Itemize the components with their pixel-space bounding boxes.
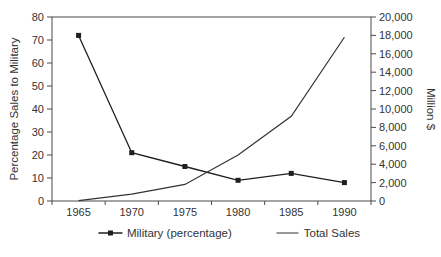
right-axis-tick-label: 6,000 <box>379 140 407 152</box>
legend-item-total-sales: Total Sales <box>276 227 360 239</box>
data-point-marker <box>236 178 241 183</box>
right-axis-tick-label: 10,000 <box>379 103 413 115</box>
data-point-marker <box>129 150 134 155</box>
x-axis-tick-label: 1970 <box>120 206 144 218</box>
left-axis-tick-label: 40 <box>32 103 44 115</box>
right-axis-tick-label: 16,000 <box>379 48 413 60</box>
right-axis-tick-label: 4,000 <box>379 158 407 170</box>
left-axis-tick-label: 0 <box>38 195 44 207</box>
right-axis-tick-label: 8,000 <box>379 121 407 133</box>
left-axis-title: Percentage Sales to Military <box>8 37 20 180</box>
military-series-swatch <box>97 228 123 238</box>
legend-label-military: Military (percentage) <box>127 227 232 239</box>
plot-area: 0102030405060708002,0004,0006,0008,00010… <box>0 0 441 257</box>
right-axis-tick-label: 18,000 <box>379 29 413 41</box>
data-point-marker <box>289 171 294 176</box>
right-axis-tick-label: 12,000 <box>379 85 413 97</box>
data-point-marker <box>182 164 187 169</box>
right-axis-title: Million $ <box>425 88 437 130</box>
right-axis-tick-label: 0 <box>379 195 385 207</box>
x-axis-tick-label: 1975 <box>173 206 197 218</box>
left-axis-tick-label: 60 <box>32 57 44 69</box>
left-axis-tick-label: 10 <box>32 172 44 184</box>
left-axis-tick-label: 80 <box>32 11 44 23</box>
legend-item-military: Military (percentage) <box>97 227 232 239</box>
legend-label-total-sales: Total Sales <box>304 227 360 239</box>
right-axis-tick-label: 20,000 <box>379 11 413 23</box>
legend: Military (percentage) Total Sales <box>97 227 360 239</box>
x-axis-tick-label: 1990 <box>332 206 356 218</box>
data-point-marker <box>76 33 81 38</box>
x-axis-tick-label: 1980 <box>226 206 250 218</box>
right-axis-tick-label: 14,000 <box>379 66 413 78</box>
right-axis-tick-label: 2,000 <box>379 177 407 189</box>
military-swatch-marker <box>107 231 112 236</box>
left-axis-tick-label: 70 <box>32 34 44 46</box>
x-axis-tick-label: 1965 <box>66 206 90 218</box>
x-axis-tick-label: 1985 <box>279 206 303 218</box>
series-line-military <box>79 35 345 182</box>
left-axis-tick-label: 50 <box>32 80 44 92</box>
left-axis-tick-label: 20 <box>32 149 44 161</box>
total-sales-series-swatch <box>276 228 300 238</box>
left-axis-tick-label: 30 <box>32 126 44 138</box>
data-point-marker <box>342 180 347 185</box>
chart-container: 0102030405060708002,0004,0006,0008,00010… <box>0 0 441 257</box>
